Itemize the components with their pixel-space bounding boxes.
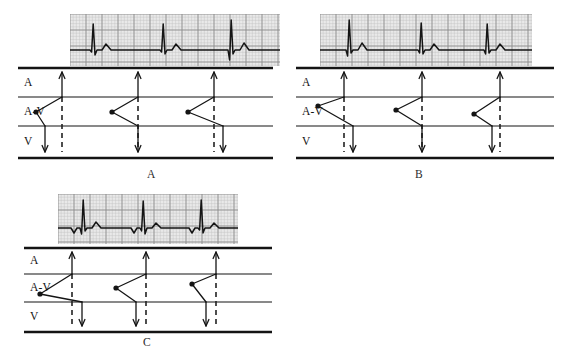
panel-c: AA-VVC (0, 0, 573, 364)
ecg-strip-c (58, 194, 238, 244)
tier-label-atrial-c: A (30, 255, 39, 267)
panel-caption-c: C (143, 337, 151, 349)
ladder-diagram-c (24, 248, 272, 336)
tier-label-av-c: A-V (30, 282, 51, 294)
tier-label-ventricular-c: V (30, 311, 39, 323)
